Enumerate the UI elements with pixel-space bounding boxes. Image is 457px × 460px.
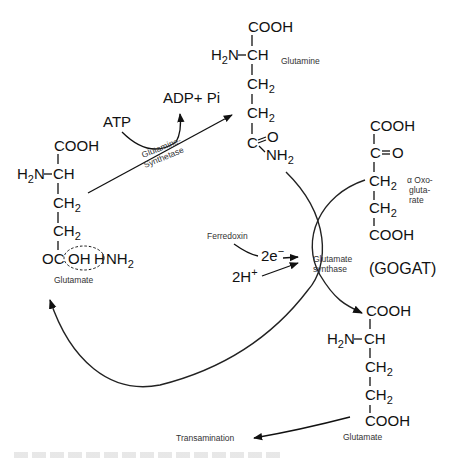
- glutamate-left-ch: CH: [53, 165, 75, 182]
- glutamate-right-h2n: H2N: [327, 330, 355, 350]
- glutamine-ch2-b: CH2: [247, 104, 275, 124]
- glutamate-right-ch: CH: [364, 330, 386, 347]
- oxoglutarate-ch2-b: CH2: [369, 199, 397, 219]
- glutamine-glutamate-cycle-diagram: COOH H2N CH Glutamine CH2 CH2 C O NH2 CO…: [0, 0, 457, 460]
- glutamate-right-cooh-bottom: COOH: [365, 412, 410, 429]
- glutamate-right-label: Glutamate: [343, 432, 382, 442]
- glutamate-left-ch2-b: CH2: [53, 222, 81, 242]
- oxoglutarate-ch2-a: CH2: [369, 172, 397, 192]
- ferredoxin-label: Ferredoxin: [207, 231, 248, 241]
- glutamate-synthase-label-2: synthase: [313, 264, 347, 274]
- glutamate-right-ch2-b: CH2: [365, 386, 393, 406]
- transamination-label: Transamination: [176, 433, 235, 443]
- glutamate-left-ch2-a: CH2: [53, 194, 81, 214]
- oxoglutarate-cooh-bottom: COOH: [369, 226, 414, 243]
- oxoglutarate-label-1: α Oxo-: [407, 175, 433, 185]
- glutamate-left-label: Glutamate: [54, 275, 93, 285]
- glutamine-ch2-a: CH2: [247, 75, 275, 95]
- oxoglutarate-cooh-top: COOH: [370, 117, 415, 134]
- oxoglutarate-label-2: gluta-: [409, 185, 430, 195]
- glutamate-left-cooh: COOH: [54, 137, 99, 154]
- oxoglutarate-to-glutamate-arrow: [312, 180, 365, 313]
- protons-label: 2H+: [232, 266, 258, 285]
- glutamine-h2n: H2N: [211, 46, 239, 66]
- glutamine-c: C: [247, 134, 258, 151]
- oxoglutarate-o: O: [392, 144, 404, 161]
- glutamine-synthetase-label: Glutamine- Synthetase: [138, 135, 186, 170]
- glutamine-o: O: [267, 128, 279, 145]
- glutamine-nh2: NH2: [266, 146, 294, 166]
- gogat-label: (GOGAT): [369, 260, 436, 277]
- glutamate-right-ch2-a: CH2: [365, 358, 393, 378]
- glutamine-cooh: COOH: [248, 18, 293, 35]
- glutamate-right-structure: COOH H2N CH CH2 CH2 COOH Glutamate: [327, 302, 411, 442]
- glutamate-left-oh: OH: [68, 250, 91, 267]
- protons-arrow: [262, 263, 298, 276]
- adp-pi-label: ADP+ Pi: [163, 89, 220, 106]
- glutamate-left-h: H: [94, 250, 105, 267]
- glutamate-left-structure: COOH H2N CH CH2 CH2 OC OH H NH2 Glutamat…: [17, 137, 134, 285]
- oxoglutarate-c: C: [370, 144, 381, 161]
- glutamine-label: Glutamine: [281, 56, 320, 66]
- glutamate-left-nh2: NH2: [106, 250, 134, 270]
- glutamine-ch: CH: [247, 46, 269, 63]
- glutamine-structure: COOH H2N CH Glutamine CH2 CH2 C O NH2: [211, 18, 320, 166]
- glutamate-left-h2n: H2N: [17, 165, 45, 185]
- atp-label: ATP: [103, 113, 131, 130]
- electrons-arrow: [283, 257, 298, 258]
- transamination-arrow: [254, 417, 350, 438]
- glutamate-right-cooh-top: COOH: [366, 302, 411, 319]
- glutamate-synthase-label-1: Glutamate: [313, 254, 352, 264]
- glutamate-left-oc: OC: [42, 250, 65, 267]
- oxoglutarate-label-3: rate: [409, 195, 424, 205]
- oxoglutarate-structure: COOH C O CH2 α Oxo- gluta- rate CH2 COOH: [369, 117, 433, 243]
- cropped-figure-caption: [14, 452, 284, 458]
- ferredoxin-connector: [234, 244, 258, 256]
- electrons-label: 2e−: [261, 245, 284, 264]
